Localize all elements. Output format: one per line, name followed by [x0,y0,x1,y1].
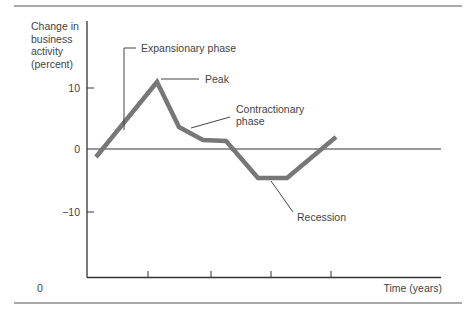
y-tick-label-0: 0 [74,143,80,155]
expansionary-phase-label: Expansionary phase [141,42,236,54]
y-tick-label-minus-10: −10 [62,206,80,218]
peak-label: Peak [205,73,230,85]
contractionary-label-line-2: phase [236,115,265,127]
x-axis-label: Time (years) [383,282,442,294]
x-origin-label: 0 [37,282,43,294]
recession-label: Recession [297,211,346,223]
chart-canvas: 10 0 −10 0 Time (years) Expansionary pha… [0,0,472,314]
business-cycle-line [96,82,336,178]
recession-leader [271,181,293,212]
contractionary-label-line-1: Contractionary [236,103,305,115]
contractionary-leader [191,117,230,128]
y-tick-label-10: 10 [68,82,80,94]
